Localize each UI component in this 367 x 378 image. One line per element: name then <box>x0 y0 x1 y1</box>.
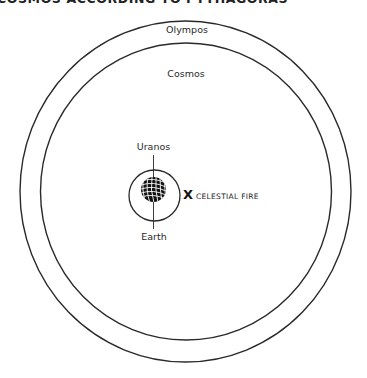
globe-icon <box>141 177 166 203</box>
celestial-fire-label: CELESTIAL FIRE <box>196 192 259 201</box>
cosmos-label: Cosmos <box>167 68 204 79</box>
x-mark-icon: X <box>183 187 193 202</box>
uranos-label: Uranos <box>137 141 170 152</box>
earth-label: Earth <box>141 231 166 242</box>
olympos-label: Olympos <box>166 24 208 35</box>
celestial-fire-annotation: X CELESTIAL FIRE <box>183 187 259 202</box>
